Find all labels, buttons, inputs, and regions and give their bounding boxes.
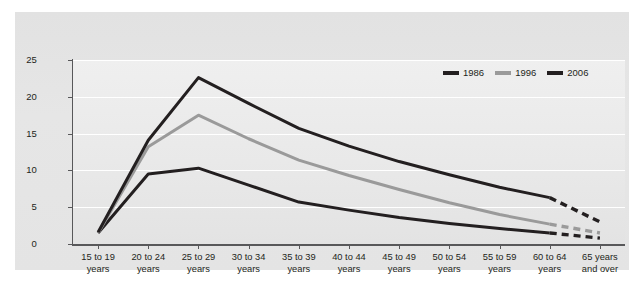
x-tick-mark [249, 245, 250, 249]
y-tick-label: 15 [0, 128, 37, 139]
y-tick-mark [68, 134, 73, 135]
x-tick-mark [399, 245, 400, 249]
series-line-dashed-2006 [550, 198, 600, 222]
x-tick-mark [550, 245, 551, 249]
y-tick-label: 20 [0, 91, 37, 102]
y-tick-label: 5 [0, 201, 37, 212]
x-tick-label: 65 yearsand over [565, 252, 635, 275]
legend-swatch-icon [547, 71, 563, 75]
x-tick-mark [449, 245, 450, 249]
x-tick-label-line: and over [565, 264, 635, 276]
series-line-dashed-1996 [550, 224, 600, 233]
y-tick-label: 10 [0, 164, 37, 175]
legend-label: 1996 [515, 67, 536, 78]
legend-swatch-icon [495, 71, 511, 75]
legend-label: 1986 [463, 67, 484, 78]
x-tick-mark [299, 245, 300, 249]
x-tick-mark [198, 245, 199, 249]
y-tick-label: 0 [0, 238, 37, 249]
series-line-1986 [98, 168, 550, 233]
x-tick-mark [98, 245, 99, 249]
plot-area [73, 60, 625, 244]
x-tick-mark [500, 245, 501, 249]
y-axis [72, 59, 73, 245]
y-tick-label: 25 [0, 54, 37, 65]
legend-item-1996: 1996 [495, 67, 536, 78]
legend-item-2006: 2006 [547, 67, 588, 78]
series-line-1996 [98, 115, 550, 233]
legend-swatch-icon [443, 71, 459, 75]
chart-panel: 2520151050 15 to 19years20 to 24years25 … [15, 12, 629, 270]
chart-legend: 1986 1996 2006 [443, 67, 588, 78]
legend-label: 2006 [567, 67, 588, 78]
series-lines [73, 60, 625, 244]
y-tick-mark [68, 97, 73, 98]
legend-item-1986: 1986 [443, 67, 484, 78]
chart-figure: 2520151050 15 to 19years20 to 24years25 … [0, 0, 644, 287]
x-tick-mark [349, 245, 350, 249]
y-tick-mark [68, 207, 73, 208]
series-line-dashed-1986 [550, 233, 600, 238]
y-tick-mark [68, 244, 73, 245]
x-tick-label-line: 65 years [565, 252, 635, 264]
y-tick-mark [68, 170, 73, 171]
x-tick-mark [148, 245, 149, 249]
y-tick-mark [68, 60, 73, 61]
x-tick-mark [600, 245, 601, 249]
